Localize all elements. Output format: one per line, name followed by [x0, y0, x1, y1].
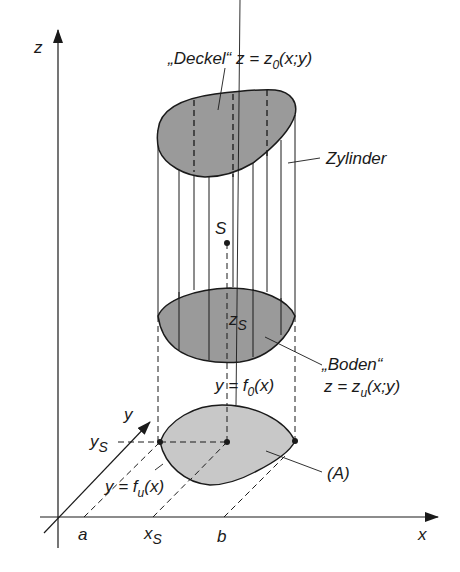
base-left-point [157, 439, 163, 445]
tick-xs-label: xS [143, 524, 163, 547]
fu-label: y = fu(x) [104, 477, 164, 500]
tick-a-label: a [78, 525, 87, 544]
deckel-surface [157, 90, 295, 177]
boden-eq-label: z = zu(x;y) [323, 377, 400, 400]
centroid-s-point [224, 240, 230, 246]
base-right-point [292, 438, 298, 444]
base-center-point [224, 439, 230, 445]
centroid-s-label: S [215, 219, 227, 238]
boden-name-label: „Boden“ [321, 355, 384, 374]
tick-b-label: b [217, 527, 226, 546]
zylinder-label: Zylinder [325, 149, 388, 168]
cylinder-centroid-diagram: z x y „Deckel“ z = z0(x;y) Zylinder S zS… [0, 0, 460, 572]
z-axis-label: z [33, 38, 43, 57]
leader-lines [155, 0, 322, 472]
ys-label: yS [89, 432, 109, 455]
y-axis-label: y [123, 405, 134, 424]
x-axis-label: x [417, 525, 427, 544]
region-a-label: (A) [327, 464, 350, 483]
f0-label: y = f0(x) [214, 376, 274, 399]
